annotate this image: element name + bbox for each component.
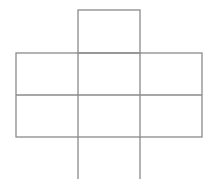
top-cell bbox=[78, 10, 140, 53]
grid-net-diagram bbox=[0, 0, 212, 179]
